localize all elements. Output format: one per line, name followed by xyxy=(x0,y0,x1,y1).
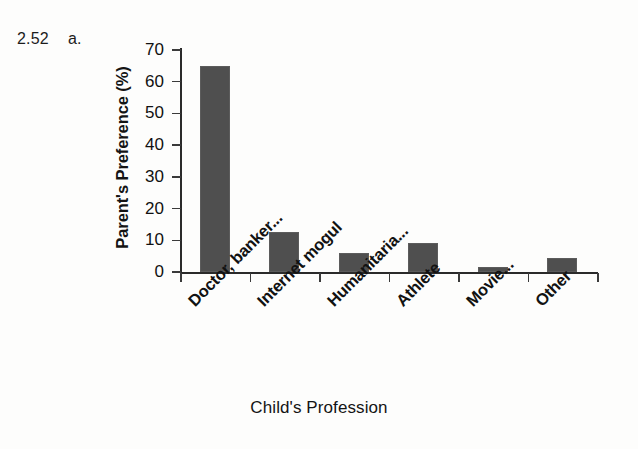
y-axis-tick xyxy=(172,176,181,178)
y-axis-tick xyxy=(172,144,181,146)
x-axis-category-label: Movie... xyxy=(462,255,517,310)
exercise-part-label: a. xyxy=(68,30,81,48)
x-axis-tick xyxy=(319,273,321,282)
y-axis-tick-label: 30 xyxy=(118,168,164,185)
y-axis-tick-label: 40 xyxy=(118,136,164,153)
y-axis-tick xyxy=(172,49,181,51)
exercise-number: 2.52 xyxy=(17,30,49,48)
x-axis-title: Child's Profession xyxy=(0,398,638,418)
y-axis-tick xyxy=(172,81,181,83)
bar-chart-figure: 2.52 a. Parent's Preference (%) 70605040… xyxy=(0,0,638,449)
bar xyxy=(200,66,230,272)
x-axis-tick xyxy=(597,273,599,282)
x-axis-tick xyxy=(458,273,460,282)
x-axis-tick xyxy=(528,273,530,282)
y-axis-tick xyxy=(172,240,181,242)
y-axis-tick-label: 20 xyxy=(118,200,164,217)
y-axis-tick xyxy=(172,113,181,115)
x-axis-tick xyxy=(250,273,252,282)
y-axis-tick xyxy=(172,208,181,210)
x-axis-tick xyxy=(389,273,391,282)
y-axis-tick-label: 0 xyxy=(118,263,164,280)
y-axis-tick-label: 70 xyxy=(118,41,164,58)
y-axis-tick-label: 60 xyxy=(118,73,164,90)
y-axis-tick-labels: 706050403020100 xyxy=(118,0,164,449)
x-axis-tick xyxy=(180,273,182,282)
y-axis-tick-label: 50 xyxy=(118,104,164,121)
y-axis-tick-label: 10 xyxy=(118,231,164,248)
